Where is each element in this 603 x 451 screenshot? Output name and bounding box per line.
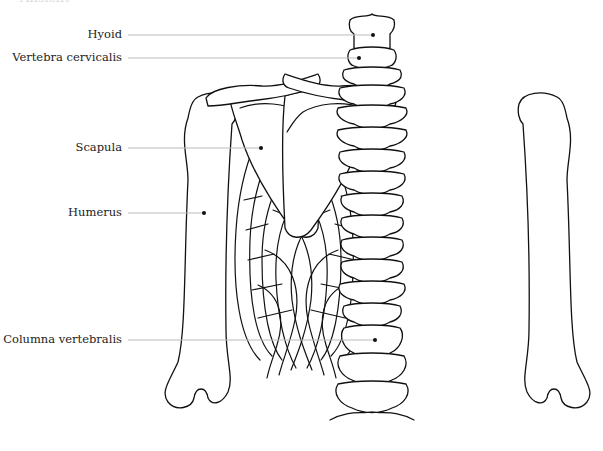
left-humerus [165,93,237,408]
skeleton-illustration [0,0,603,451]
vertebral-column [330,14,414,420]
right-humerus [518,93,590,408]
